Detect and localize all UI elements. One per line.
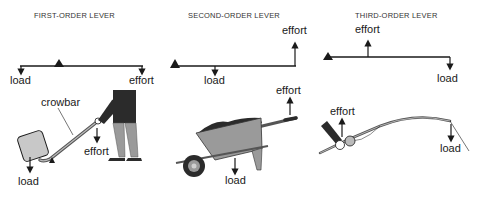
fulcrum-icon <box>54 59 64 67</box>
first-order-load-label: load <box>18 175 39 187</box>
person-legs <box>113 123 125 157</box>
third-order-load-label: load <box>440 142 461 154</box>
third-order-schematic-load-label: load <box>437 72 458 84</box>
first-order-title: FIRST-ORDER LEVER <box>34 11 115 20</box>
reel <box>345 136 355 146</box>
fulcrum-icon <box>323 52 333 60</box>
second-order-schematic-load-label: load <box>204 74 225 86</box>
fulcrum-icon <box>170 59 180 68</box>
wheelbarrow-illustration <box>176 100 296 177</box>
crowbar-label: crowbar <box>41 96 80 108</box>
person-torso <box>113 90 136 123</box>
second-order-schematic <box>170 45 296 73</box>
load-box <box>17 130 50 163</box>
second-order-title: SECOND-ORDER LEVER <box>188 11 280 20</box>
first-order-schematic-effort-label: effort <box>129 74 154 86</box>
third-order-schematic-effort-label: effort <box>355 23 380 35</box>
second-order-schematic-effort-label: effort <box>282 24 307 36</box>
first-order-schematic <box>20 59 143 72</box>
second-order-effort-label: effort <box>276 84 301 96</box>
third-order-effort-label: effort <box>330 105 355 117</box>
first-order-effort-label: effort <box>84 145 109 157</box>
third-order-title: THIRD-ORDER LEVER <box>355 11 438 20</box>
second-order-load-label: load <box>225 174 246 186</box>
third-order-schematic <box>323 43 450 67</box>
first-order-schematic-load-label: load <box>10 74 31 86</box>
